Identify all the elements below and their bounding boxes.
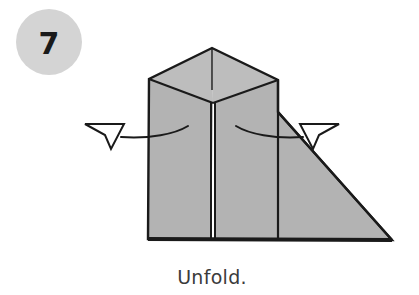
step-number-badge: 7 [16,9,82,75]
step-caption: Unfold. [177,266,247,288]
paper-bottom-edge [148,239,392,240]
origami-step-diagram: 7 [0,0,419,295]
paper-right-body-panel [215,80,278,239]
paper-left-body-panel [148,79,213,239]
step-number-label: 7 [39,26,60,61]
diagram-canvas: 7 [0,0,419,295]
